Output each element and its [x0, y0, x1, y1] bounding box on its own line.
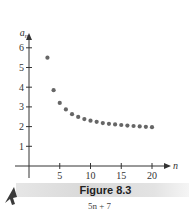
x-tick-label: 10 — [86, 170, 96, 180]
data-point — [70, 112, 74, 116]
data-point — [150, 125, 154, 129]
data-point — [131, 124, 135, 128]
x-tick-label: 20 — [147, 170, 157, 180]
y-tick-label: 2 — [19, 121, 24, 132]
x-tick-label: 5 — [57, 170, 62, 180]
x-tick-label: 15 — [116, 170, 126, 180]
data-point — [58, 101, 62, 105]
y-axis-label: an — [20, 27, 29, 40]
sequence-scatter-chart: 5101520123456 an n — [0, 0, 189, 180]
data-point — [76, 115, 80, 119]
data-points — [45, 56, 154, 130]
data-point — [113, 122, 117, 126]
data-point — [144, 125, 148, 129]
partial-formula-text: 5n + 7 — [88, 199, 111, 209]
ticks: 5101520123456 — [19, 42, 157, 180]
data-point — [125, 124, 129, 128]
x-axis-arrow-icon — [164, 163, 171, 169]
figure-label: Figure 8.3 — [16, 183, 189, 197]
axes — [15, 33, 171, 178]
data-point — [52, 88, 56, 92]
data-point — [45, 56, 49, 60]
y-tick-label: 3 — [19, 101, 24, 112]
data-point — [138, 124, 142, 128]
x-axis-label: n — [173, 160, 178, 171]
data-point — [119, 123, 123, 127]
data-point — [82, 117, 86, 121]
data-point — [95, 120, 99, 124]
y-tick-label: 5 — [19, 62, 24, 73]
data-point — [64, 107, 68, 111]
y-tick-label: 4 — [19, 82, 24, 93]
figure-caption-banner: Figure 8.3 — [16, 183, 189, 197]
data-point — [88, 119, 92, 123]
cursor-arrow-icon — [4, 186, 18, 206]
data-point — [101, 121, 105, 125]
y-tick-label: 1 — [19, 141, 24, 152]
y-tick-label: 6 — [19, 42, 24, 53]
data-point — [107, 122, 111, 126]
